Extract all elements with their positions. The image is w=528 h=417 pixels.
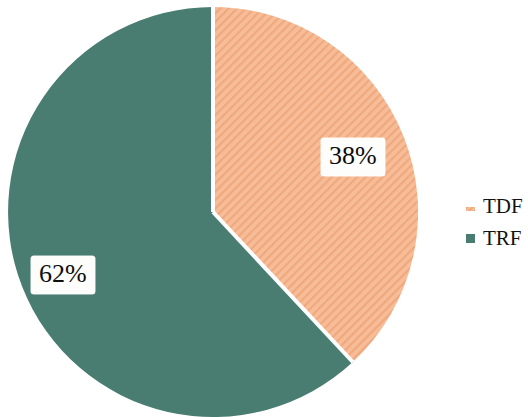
data-label-trf: 62% <box>31 256 95 294</box>
legend-item-tdf: TDF <box>466 190 528 222</box>
legend-swatch-tdf-svg <box>466 207 475 211</box>
legend-swatch-trf-icon <box>466 234 475 243</box>
legend-item-trf: TRF <box>466 222 528 254</box>
legend-swatch-tdf-icon <box>466 202 475 211</box>
pie-svg <box>8 7 418 417</box>
legend-label-tdf: TDF <box>483 196 523 217</box>
data-label-tdf: 38% <box>321 138 385 176</box>
pie-graphic <box>8 7 418 417</box>
chart-legend: TDF TRF <box>466 190 528 254</box>
legend-label-trf: TRF <box>483 228 522 249</box>
